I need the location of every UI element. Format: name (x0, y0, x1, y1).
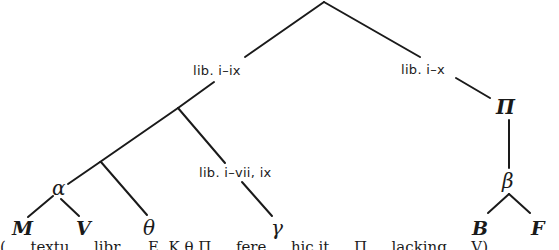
node-v: V (76, 219, 91, 238)
edge-beta-f (509, 194, 530, 213)
edge-lib-i-ix-junction1 (178, 82, 214, 108)
node-b: B (472, 219, 488, 238)
edge-lib-i-vii-ix-gamma (242, 182, 272, 216)
edge-archetype-lib-i-x (324, 2, 420, 57)
node-theta: θ (143, 218, 155, 238)
caption-clipped: ( … textu … libr. … E, K θ Π … fere … hi… (0, 240, 559, 250)
edge-junction1-lib-i-vii-ix (178, 108, 225, 163)
node-f: F (531, 219, 545, 238)
stemma-edges (0, 0, 559, 250)
stemma-diagram: lib. i–ix lib. i–x lib. i–vii, ix α Π β … (0, 0, 559, 250)
node-beta: β (502, 171, 514, 191)
edge-alpha-m (28, 196, 53, 217)
edge-alpha-v (61, 199, 79, 216)
node-lib-i-x: lib. i–x (401, 63, 445, 76)
edge-lib-i-x-pi (456, 78, 490, 98)
node-m: M (12, 219, 33, 238)
edge-junction1-junction2 (100, 108, 178, 162)
edge-junction2-alpha (68, 162, 100, 184)
node-lib-i-ix: lib. i–ix (193, 64, 241, 77)
edge-archetype-lib-i-ix (245, 2, 324, 57)
node-lib-i-vii-ix: lib. i–vii, ix (199, 166, 272, 179)
node-alpha: α (52, 178, 66, 198)
edge-junction2-theta (101, 162, 147, 215)
edge-beta-b (488, 194, 509, 213)
node-gamma: γ (271, 218, 283, 238)
node-pi: Π (496, 97, 515, 117)
